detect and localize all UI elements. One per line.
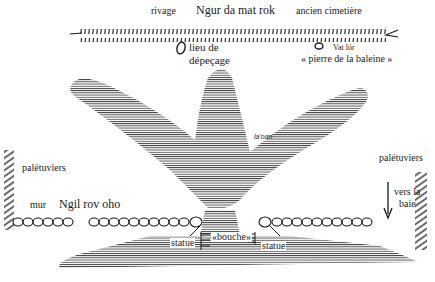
rivage-label: rivage [151, 6, 176, 16]
statue-right-label: statue [261, 241, 286, 251]
whale-stone-name: Vat lór [333, 44, 355, 52]
whale-stone-gloss: « pierre de la baleine » [301, 54, 392, 64]
right-mangroves [415, 172, 427, 250]
wall-label: mur [30, 200, 46, 210]
cemetery-label: ancien cimetière [296, 6, 362, 16]
direction-arrow [384, 182, 392, 218]
shoreline [70, 29, 398, 42]
place-name-label: Ngur da mat rok [196, 4, 275, 16]
butchering-site-marker [176, 41, 187, 55]
direction-label-2: baie [399, 199, 416, 209]
left-mangroves-label: palétuviers [22, 163, 66, 173]
statue-left-label: statue [170, 238, 195, 248]
la-oan-figure [70, 69, 368, 209]
butchering-site-label-2: dépeçage [189, 55, 230, 66]
whale-stone-marker [315, 43, 323, 49]
mouth-label: «bouche» [211, 232, 252, 242]
wall-name-label: Ngil rov oho [59, 198, 120, 210]
butchering-site-label-1: lieu de [189, 42, 219, 53]
la-oan-label: la'oan [254, 133, 272, 140]
wall-chain [13, 217, 372, 227]
right-mangroves-label: palétuviers [379, 153, 423, 163]
direction-label-1: vers la [394, 187, 420, 197]
left-mangroves [4, 150, 14, 230]
